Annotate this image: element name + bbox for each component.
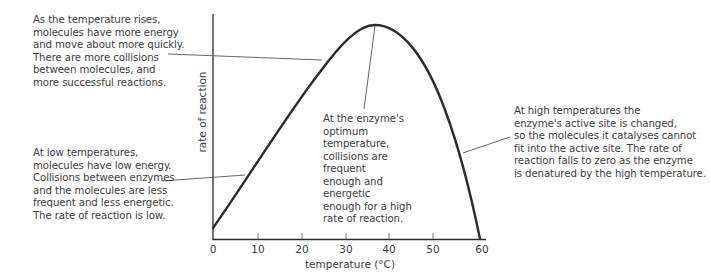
x-tick-label: 0 [210,243,217,255]
annotation-rising-temperature: As the temperature rises, molecules have… [33,14,213,89]
x-tick-label: 30 [339,243,352,255]
x-axis-title: temperature (°C) [305,258,395,270]
annotation-low-temperature: At low temperatures, molecules have low … [33,147,183,222]
x-tick-label: 50 [426,243,439,255]
x-tick-label: 20 [295,243,308,255]
leader-line-optimum [364,26,375,109]
x-tick-label: 40 [382,243,395,255]
x-ticks [258,233,433,239]
leader-line-high [463,137,510,153]
x-tick-label: 10 [251,243,264,255]
annotation-optimum-temperature: At the enzyme's optimum temperature, col… [323,113,433,226]
x-tick-label: 60 [475,243,488,255]
x-tick-labels: 0 10 20 30 40 50 60 [210,243,489,255]
annotation-high-temperature: At high temperatures the enzyme's active… [514,105,711,180]
